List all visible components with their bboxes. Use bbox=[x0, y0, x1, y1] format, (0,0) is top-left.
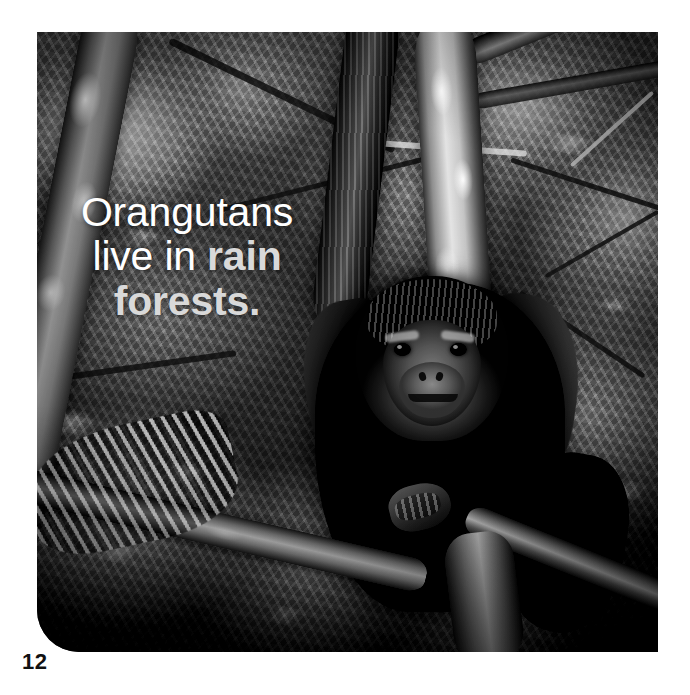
page-number: 12 bbox=[22, 649, 47, 675]
photo-canvas bbox=[37, 32, 658, 652]
caption-text-plain: Orangutans bbox=[81, 189, 293, 235]
caption-text-highlight: forests. bbox=[114, 278, 261, 324]
caption-line-3: forests. bbox=[62, 279, 312, 323]
photo-bottom-shading bbox=[37, 32, 658, 652]
book-page: Orangutans live in rain forests. 12 bbox=[0, 0, 690, 695]
caption-text-highlight: rain bbox=[207, 233, 281, 279]
caption-overlay: Orangutans live in rain forests. bbox=[62, 190, 312, 323]
caption-text-plain: live in bbox=[92, 233, 207, 279]
caption-line-2: live in rain bbox=[62, 234, 312, 278]
photograph: Orangutans live in rain forests. bbox=[37, 32, 658, 652]
caption-line-1: Orangutans bbox=[62, 190, 312, 234]
